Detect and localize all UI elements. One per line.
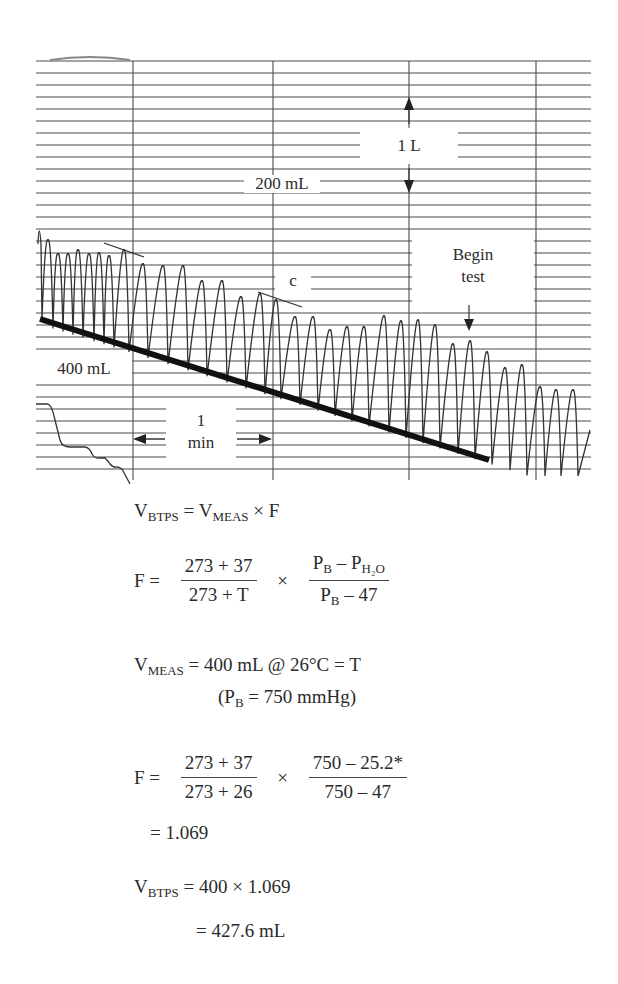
equation-factor-result: = 1.069: [150, 822, 208, 844]
fraction-pressure: PB – PH₂O PB – 47: [309, 552, 389, 609]
label-1-liter-text: 1 L: [397, 136, 420, 155]
volume-400-text: 400 mL: [57, 359, 110, 378]
fraction-temperature-values: 273 + 37 273 + 26: [181, 752, 257, 803]
equation-vbtps-result: = 427.6 mL: [196, 920, 285, 942]
label-point-c: c: [275, 270, 311, 294]
time-min-text: min: [166, 432, 236, 454]
label-begin-test: Begin test: [412, 238, 534, 302]
equation-vbtps-values: VBTPS = 400 × 1.069: [134, 876, 291, 901]
arrow-left-icon: [133, 434, 146, 444]
arrow-up-icon: [404, 97, 414, 110]
step-trace: [36, 404, 130, 484]
equation-barometric: (PB = 750 mmHg): [218, 686, 356, 711]
time-1-text: 1: [166, 410, 236, 432]
tangent-line-a: [104, 243, 144, 257]
equation-factor-values: F = 273 + 37 273 + 26 × 750 – 25.2* 750 …: [134, 752, 413, 803]
equation-factor-general: F = 273 + 37 273 + T × PB – PH₂O PB – 47: [134, 552, 395, 609]
test-text: test: [412, 266, 534, 288]
fraction-pressure-values: 750 – 25.2* 750 – 47: [309, 752, 407, 803]
label-1-min: 1 min: [166, 408, 236, 464]
begin-text: Begin: [412, 244, 534, 266]
arrow-down-icon: [404, 180, 414, 193]
label-200-ml: 200 mL: [244, 175, 320, 193]
smudge-mark: [50, 57, 130, 60]
arrow-right-icon: [259, 434, 272, 444]
label-1-liter: 1 L: [360, 128, 458, 164]
tangent-line-c: [258, 292, 302, 307]
equation-vmeas: VMEAS = 400 mL @ 26°C = T: [134, 654, 361, 679]
point-c-text: c: [289, 271, 297, 290]
fraction-temperature: 273 + 37 273 + T: [181, 555, 257, 606]
label-400-ml: 400 mL: [36, 356, 132, 382]
equation-vbtps: VBTPS = VMEAS × F: [134, 500, 279, 525]
label-200-ml-text: 200 mL: [255, 174, 308, 193]
